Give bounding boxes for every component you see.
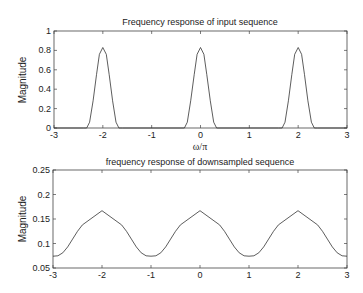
input-spectrum-plot: Frequency response of input sequence -3-… (17, 17, 350, 152)
y-tick-label: 0.2 (37, 190, 50, 200)
x-tick-label: -1 (147, 270, 155, 280)
x-tick-label: -3 (50, 130, 58, 140)
y-tick-label: 0.4 (38, 84, 51, 94)
x-tick-label: -2 (99, 130, 107, 140)
x-tick-label: -2 (98, 270, 106, 280)
x-tick-label: 2 (296, 130, 301, 140)
y-axis-label: Magnitude (17, 56, 28, 103)
x-tick-label: -3 (49, 270, 57, 280)
downsampled-spectrum-plot: frequency response of downsampled sequen… (17, 157, 350, 280)
y-tick-label: 0.2 (38, 104, 51, 114)
y-axis-label: Magnitude (17, 195, 28, 242)
y-tick-label: 0.1 (37, 239, 50, 249)
plot-title: Frequency response of input sequence (122, 17, 278, 27)
x-tick-label: 1 (247, 130, 252, 140)
x-tick-label: 1 (246, 270, 251, 280)
axes-box (53, 170, 347, 268)
y-tick-label: 0.05 (32, 263, 50, 273)
x-tick-label: 0 (197, 270, 202, 280)
y-tick-label: 0.15 (32, 214, 50, 224)
x-tick-label: 2 (295, 270, 300, 280)
y-axis-ticks: 00.20.40.60.81 (38, 26, 347, 133)
x-tick-label: -1 (148, 130, 156, 140)
figure: Frequency response of input sequence -3-… (0, 0, 363, 293)
y-tick-label: 0.8 (38, 45, 51, 55)
y-tick-label: 1 (46, 26, 51, 36)
x-axis-ticks: -3-2-10123 (49, 170, 350, 280)
x-tick-label: 0 (198, 130, 203, 140)
axes-box (54, 31, 347, 128)
y-tick-label: 0.25 (32, 165, 50, 175)
x-axis-label: ω/π (193, 141, 207, 152)
y-axis-ticks: 0.050.10.150.20.25 (32, 165, 347, 273)
x-tick-label: 3 (344, 270, 349, 280)
magnitude-curve (53, 211, 347, 257)
x-tick-label: 3 (344, 130, 349, 140)
y-tick-label: 0 (46, 123, 51, 133)
plot-title: frequency response of downsampled sequen… (106, 157, 295, 167)
y-tick-label: 0.6 (38, 65, 51, 75)
magnitude-curve (54, 48, 347, 129)
